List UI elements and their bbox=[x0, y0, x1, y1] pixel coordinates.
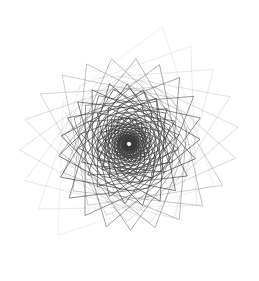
spiral-figure-canvas bbox=[0, 0, 259, 281]
